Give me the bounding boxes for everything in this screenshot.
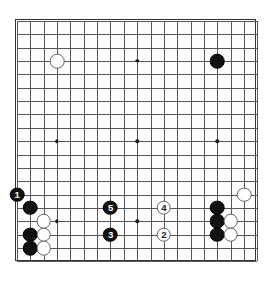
star-point (135, 220, 138, 223)
grid-line-vertical (151, 21, 152, 261)
stone-black[interactable] (23, 201, 38, 216)
board-stones: 15342 (16, 20, 257, 262)
grid-line-vertical (44, 21, 45, 261)
stone-move-number: 1 (14, 189, 19, 199)
grid-line-horizontal (17, 128, 257, 129)
go-board-diagram: 15342 (0, 0, 269, 288)
grid-line-vertical (257, 21, 258, 261)
grid-line-horizontal (17, 195, 257, 196)
grid-line-horizontal (17, 248, 257, 249)
grid-line-vertical (137, 21, 138, 261)
grid-line-vertical (191, 21, 192, 261)
grid-line-horizontal (17, 48, 257, 49)
grid-line-vertical (110, 21, 111, 261)
stone-white[interactable] (223, 214, 238, 229)
grid-line-vertical (217, 21, 218, 261)
star-point (216, 220, 219, 223)
grid-line-horizontal (17, 235, 257, 236)
grid-line-horizontal (17, 74, 257, 75)
grid-line-vertical (164, 21, 165, 261)
star-point (55, 59, 58, 62)
grid-line-horizontal (17, 168, 257, 169)
stone-white[interactable] (237, 187, 252, 202)
grid-line-horizontal (17, 34, 257, 35)
grid-line-horizontal (17, 261, 257, 262)
stone-black[interactable] (210, 214, 225, 229)
grid-line-horizontal (17, 88, 257, 89)
grid-line-horizontal (17, 61, 257, 62)
board-grid (16, 20, 257, 262)
board-star-points (16, 20, 257, 262)
grid-line-vertical (57, 21, 58, 261)
stone-white-move-2[interactable]: 2 (157, 227, 172, 242)
stone-white[interactable] (50, 54, 65, 69)
stone-move-number: 3 (108, 230, 113, 240)
grid-line-horizontal (17, 208, 257, 209)
star-point (135, 139, 138, 142)
grid-line-horizontal (17, 141, 257, 142)
stone-white[interactable] (223, 227, 238, 242)
stone-white[interactable] (36, 227, 51, 242)
stone-move-number: 4 (161, 203, 166, 213)
stone-black-move-5[interactable]: 5 (103, 201, 118, 216)
stone-black[interactable] (210, 201, 225, 216)
star-point (216, 139, 219, 142)
star-point (55, 220, 58, 223)
stone-black[interactable] (210, 227, 225, 242)
grid-line-vertical (124, 21, 125, 261)
grid-line-vertical (204, 21, 205, 261)
grid-line-horizontal (17, 221, 257, 222)
grid-line-horizontal (17, 101, 257, 102)
grid-line-horizontal (17, 181, 257, 182)
stone-white[interactable] (36, 214, 51, 229)
stone-black-move-3[interactable]: 3 (103, 227, 118, 242)
stone-move-number: 2 (161, 230, 166, 240)
grid-line-vertical (244, 21, 245, 261)
stone-white-move-4[interactable]: 4 (157, 201, 172, 216)
grid-line-horizontal (17, 21, 257, 22)
grid-line-horizontal (17, 155, 257, 156)
stone-black[interactable] (210, 54, 225, 69)
stone-white[interactable] (36, 241, 51, 256)
stone-move-number: 5 (108, 203, 113, 213)
grid-line-vertical (30, 21, 31, 261)
go-board[interactable]: 15342 (15, 19, 256, 261)
grid-line-vertical (17, 21, 18, 261)
grid-line-vertical (231, 21, 232, 261)
grid-line-vertical (177, 21, 178, 261)
grid-line-vertical (97, 21, 98, 261)
stone-black-move-1[interactable]: 1 (10, 187, 25, 202)
star-point (135, 59, 138, 62)
stone-black[interactable] (23, 241, 38, 256)
grid-line-vertical (70, 21, 71, 261)
grid-line-vertical (84, 21, 85, 261)
stone-black[interactable] (23, 227, 38, 242)
star-point (55, 139, 58, 142)
star-point (216, 59, 219, 62)
grid-line-horizontal (17, 114, 257, 115)
